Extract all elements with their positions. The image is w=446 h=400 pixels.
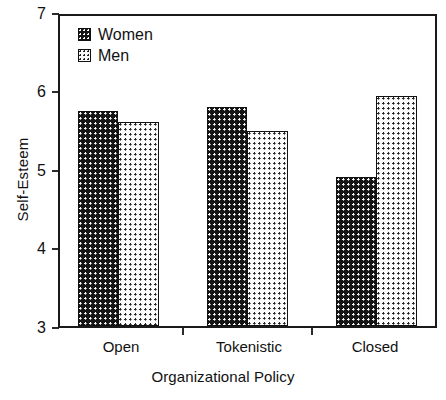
legend: Women Men: [78, 24, 153, 66]
y-axis-title: Self-Esteem: [14, 110, 31, 250]
bar-chart-figure: Self-Esteem 7 6 5 4 3 Women Men: [0, 0, 446, 400]
legend-swatch-men-icon: [78, 49, 91, 62]
x-tick-mark-1: [182, 328, 184, 335]
bar-women-tokenistic: [207, 107, 247, 326]
legend-item-women: Women: [78, 24, 153, 45]
legend-swatch-women-icon: [78, 28, 91, 41]
legend-label-women: Women: [98, 27, 153, 43]
x-tick-label-open: Open: [66, 338, 176, 355]
y-tick-label-3: 3: [22, 320, 46, 336]
legend-item-men: Men: [78, 45, 153, 66]
x-axis-title: Organizational Policy: [0, 368, 446, 385]
bar-women-open: [78, 111, 118, 327]
y-tick-label-5: 5: [22, 163, 46, 179]
x-tick-label-tokenistic: Tokenistic: [192, 338, 306, 355]
x-tick-mark-2: [311, 328, 313, 335]
x-tick-label-closed: Closed: [320, 338, 430, 355]
y-tick-label-6: 6: [22, 84, 46, 100]
bar-men-closed: [376, 96, 417, 326]
bar-men-tokenistic: [247, 131, 288, 326]
y-tick-label-7: 7: [22, 6, 46, 22]
plot-area: Women Men: [58, 14, 437, 328]
legend-label-men: Men: [98, 48, 129, 64]
y-tick-label-4: 4: [22, 241, 46, 257]
bar-men-open: [118, 122, 159, 326]
bar-women-closed: [336, 177, 376, 326]
